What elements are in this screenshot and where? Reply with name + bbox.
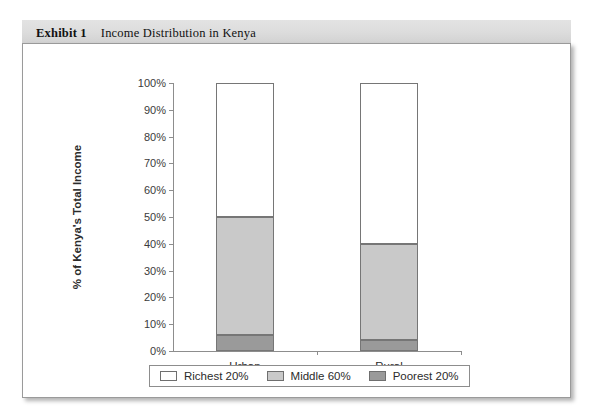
bar-segment[interactable] <box>216 335 274 351</box>
legend-label: Middle 60% <box>291 370 351 382</box>
y-tick-mark <box>169 83 173 84</box>
bar-segment[interactable] <box>360 244 418 340</box>
bar-segment[interactable] <box>360 340 418 351</box>
exhibit-number-label: Exhibit 1 <box>36 26 87 40</box>
y-tick-mark <box>169 297 173 298</box>
y-tick-label: 80% <box>144 131 166 143</box>
y-tick-mark <box>169 271 173 272</box>
y-tick-label: 90% <box>144 104 166 116</box>
y-tick-label: 70% <box>144 157 166 169</box>
legend-item[interactable]: Poorest 20% <box>369 370 459 382</box>
bar-segment[interactable] <box>216 217 274 335</box>
y-tick-mark <box>169 217 173 218</box>
y-tick-mark <box>169 163 173 164</box>
stacked-bar[interactable] <box>360 83 418 351</box>
exhibit-header-text: Exhibit 1Income Distribution in Kenya <box>36 23 256 41</box>
exhibit-header-band: Exhibit 1Income Distribution in Kenya <box>22 20 571 43</box>
y-tick-mark <box>169 137 173 138</box>
plot-area: % of Kenya's Total Income 0%10%20%30%40%… <box>173 83 461 351</box>
bar-segment[interactable] <box>360 83 418 244</box>
legend-label: Richest 20% <box>184 370 249 382</box>
y-tick-label: 0% <box>150 345 166 357</box>
y-tick-label: 40% <box>144 238 166 250</box>
exhibit-container: Exhibit 1Income Distribution in Kenya % … <box>22 20 571 398</box>
chart-panel: % of Kenya's Total Income 0%10%20%30%40%… <box>22 43 571 398</box>
legend-swatch-icon <box>160 371 177 381</box>
y-tick-mark <box>169 110 173 111</box>
y-tick-label: 100% <box>138 77 166 89</box>
y-tick-label: 20% <box>144 291 166 303</box>
x-tick-mark <box>317 351 318 355</box>
y-tick-mark <box>169 244 173 245</box>
legend-item[interactable]: Richest 20% <box>160 370 249 382</box>
stacked-bar[interactable] <box>216 83 274 351</box>
legend-swatch-icon <box>267 371 284 381</box>
y-tick-label: 10% <box>144 318 166 330</box>
y-tick-mark <box>169 351 173 352</box>
chart-legend: Richest 20%Middle 60%Poorest 20% <box>149 365 470 387</box>
legend-label: Poorest 20% <box>393 370 459 382</box>
y-axis-line <box>173 83 174 351</box>
y-tick-label: 50% <box>144 211 166 223</box>
y-tick-mark <box>169 190 173 191</box>
exhibit-title: Income Distribution in Kenya <box>101 26 256 40</box>
bar-segment[interactable] <box>216 83 274 217</box>
legend-item[interactable]: Middle 60% <box>267 370 351 382</box>
y-axis-title: % of Kenya's Total Income <box>71 145 83 289</box>
x-tick-mark <box>461 351 462 355</box>
y-tick-label: 30% <box>144 265 166 277</box>
y-tick-label: 60% <box>144 184 166 196</box>
legend-swatch-icon <box>369 371 386 381</box>
y-tick-mark <box>169 324 173 325</box>
